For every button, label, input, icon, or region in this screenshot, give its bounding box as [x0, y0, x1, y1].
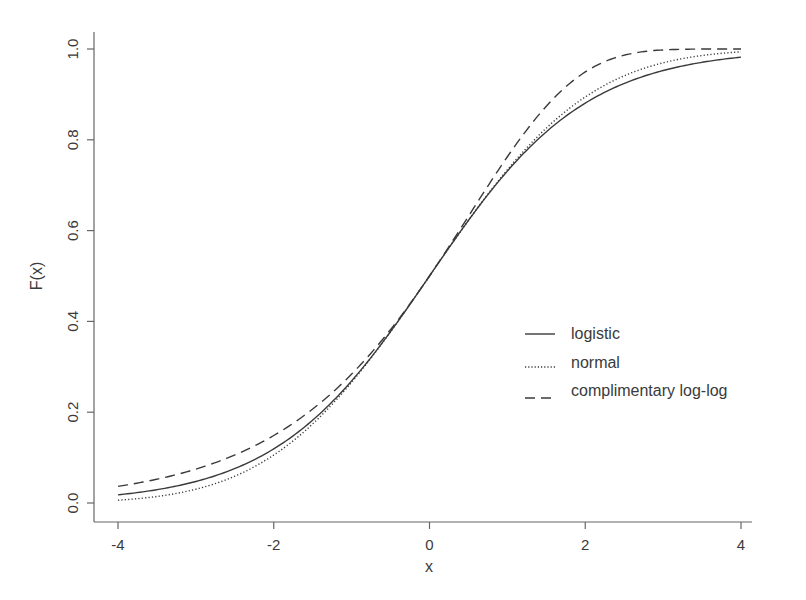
x-axis-title: x — [425, 558, 433, 575]
cloglog-curve — [118, 49, 741, 486]
x-tick-label: 0 — [425, 536, 433, 553]
plot-area — [118, 49, 741, 500]
legend-label-logistic: logistic — [571, 325, 620, 342]
y-tick-label: 0.4 — [64, 311, 81, 332]
y-tick-label: 1.0 — [64, 39, 81, 60]
legend-label-normal: normal — [571, 354, 620, 371]
x-tick-label: -4 — [111, 536, 124, 553]
x-tick-label: 4 — [737, 536, 745, 553]
y-tick-label: 0.8 — [64, 129, 81, 150]
legend-label-cloglog: complimentary log-log — [571, 382, 728, 399]
x-axis: -4-2024 — [94, 522, 752, 553]
y-tick-label: 0.2 — [64, 402, 81, 423]
y-tick-label: 0.6 — [64, 220, 81, 241]
y-axis: 0.00.20.40.60.81.0 — [64, 32, 94, 522]
x-tick-label: 2 — [581, 536, 589, 553]
y-tick-label: 0.0 — [64, 493, 81, 514]
y-axis-title: F(x) — [28, 262, 45, 290]
chart-canvas: 0.00.20.40.60.81.0 -4-2024 x F(x) logist… — [0, 0, 806, 600]
x-tick-label: -2 — [267, 536, 280, 553]
legend: logistic normal complimentary log-log — [525, 325, 728, 399]
